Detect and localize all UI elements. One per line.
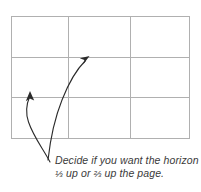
grid-frame (12, 17, 190, 139)
caption-block: Decide if you want the horizon ⅓ up or ⅔… (55, 154, 201, 180)
arrow-to-lower-third-path (27, 97, 50, 162)
fraction-one-third: ⅓ (55, 168, 63, 179)
diagram-page: Decide if you want the horizon ⅓ up or ⅔… (0, 0, 201, 192)
arrow-to-lower-third-head (26, 91, 34, 101)
caption-suffix-text: up the page. (102, 167, 165, 179)
fraction-two-thirds: ⅔ (94, 168, 102, 179)
caption-line-2: ⅓ up or ⅔ up the page. (55, 167, 201, 181)
caption-line-1: Decide if you want the horizon (55, 154, 201, 167)
caption-middle-text: up or (63, 167, 93, 179)
arrow-to-upper-third-path (48, 61, 86, 161)
